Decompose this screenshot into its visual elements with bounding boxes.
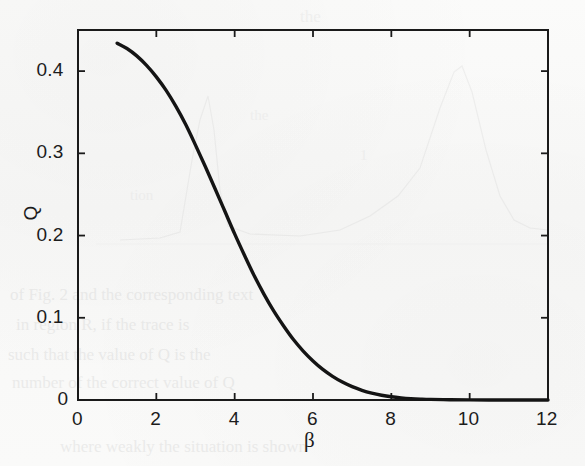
x-tick-label: 8: [385, 408, 396, 430]
x-tick-label: 12: [536, 408, 558, 430]
x-axis-ticks: [78, 30, 548, 400]
plot-canvas: [0, 0, 585, 466]
y-tick-label: 0.3: [37, 141, 64, 163]
data-series-q: [117, 43, 548, 400]
x-tick-label: 10: [458, 408, 480, 430]
x-axis-title: β: [304, 428, 315, 453]
axis-frame: [78, 30, 548, 400]
y-tick-label: 0: [58, 388, 69, 410]
x-tick-label: 4: [229, 408, 240, 430]
x-tick-label: 2: [150, 408, 161, 430]
x-tick-label: 6: [307, 408, 318, 430]
y-axis-ticks: [78, 71, 548, 400]
figure-container: of Fig. 2 and the corresponding text in …: [0, 0, 585, 466]
y-axis-title: Q: [20, 206, 42, 221]
x-tick-label: 0: [72, 408, 83, 430]
y-tick-label: 0.1: [37, 306, 64, 328]
y-tick-label: 0.4: [37, 59, 64, 81]
y-tick-label: 0.2: [37, 224, 64, 246]
